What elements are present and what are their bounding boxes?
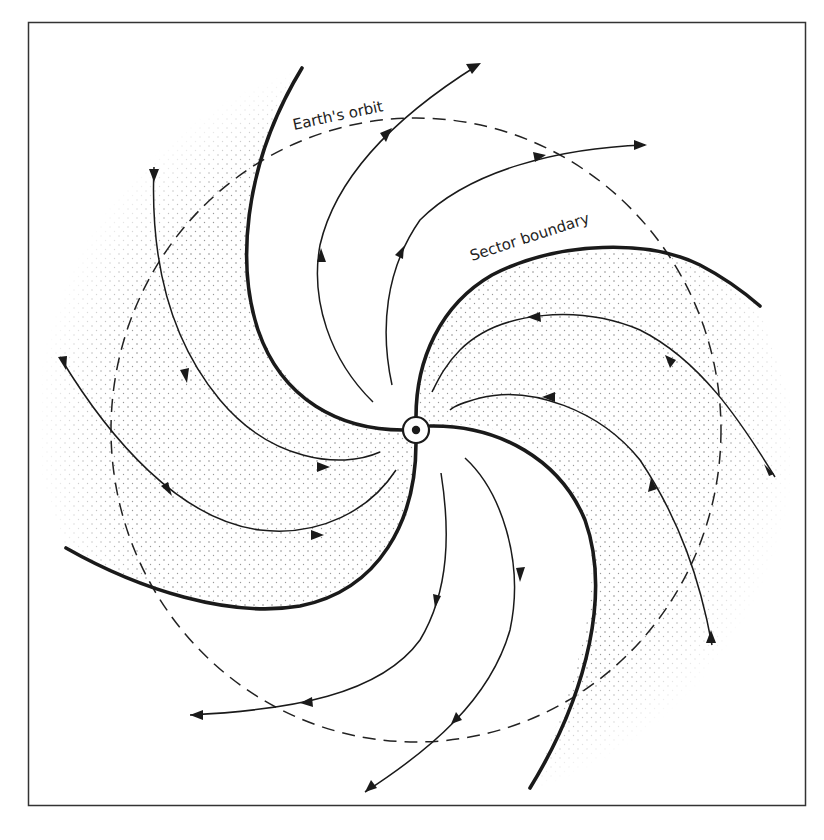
arrow-icon [190, 710, 203, 720]
shaded-sector-right [416, 250, 795, 790]
arrow-icon [365, 780, 377, 792]
arrow-icon [533, 152, 546, 162]
shaded-sector-left [40, 68, 416, 608]
arrow-icon [395, 246, 404, 259]
arrow-icon [516, 567, 525, 582]
arrow-icon [451, 712, 462, 724]
arrow-icon [634, 140, 647, 150]
sector-structure-diagram: Earth's orbit Sector boundary [0, 0, 824, 840]
arrow-icon [433, 594, 441, 608]
arrow-icon [466, 63, 481, 74]
sun-symbol [403, 417, 429, 443]
